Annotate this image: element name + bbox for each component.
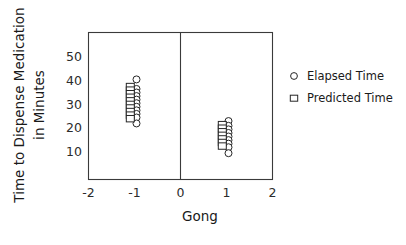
x-tick-label: 1: [223, 185, 231, 200]
legend-marker-circle-icon: [291, 73, 298, 80]
data-point-square: [218, 143, 226, 149]
x-tick-label: -2: [82, 185, 94, 200]
y-tick-label: 50: [66, 49, 82, 64]
y-tick-label: 10: [66, 144, 82, 159]
y-axis-tick-labels: 50 40 30 20 10: [66, 49, 82, 159]
x-tick-label: -1: [128, 185, 140, 200]
x-tick-label: 2: [269, 185, 277, 200]
plot-frame: [89, 33, 273, 180]
legend-marker-square-icon: [290, 95, 297, 101]
legend-label-predicted: Predicted Time: [307, 91, 393, 105]
data-point-circle: [133, 76, 140, 83]
data-points-layer: [126, 76, 232, 157]
legend: Elapsed Time Predicted Time: [290, 69, 392, 105]
y-tick-label: 40: [66, 73, 82, 88]
data-point-square: [126, 115, 134, 121]
y-axis-title-line2: in Minutes: [31, 70, 47, 140]
y-tick-label: 30: [66, 97, 82, 112]
y-axis-title-line1: Time to Dispense Medication: [11, 7, 27, 203]
legend-label-elapsed: Elapsed Time: [307, 69, 384, 83]
x-tick-label: 0: [177, 185, 185, 200]
x-axis-tick-labels: -2 -1 0 1 2: [82, 185, 276, 200]
y-tick-label: 20: [66, 120, 82, 135]
data-point-circle: [225, 150, 232, 157]
scatter-chart-figure: 50 40 30 20 10 -2 -1 0 1 2 Gong Time to …: [0, 0, 406, 245]
x-axis-title: Gong: [182, 208, 218, 224]
chart-svg: 50 40 30 20 10 -2 -1 0 1 2 Gong Time to …: [0, 0, 406, 245]
